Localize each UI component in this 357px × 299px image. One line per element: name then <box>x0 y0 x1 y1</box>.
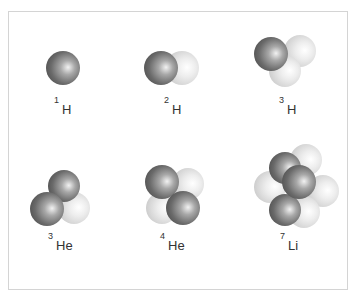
proton-sphere-icon <box>30 192 64 226</box>
nuclei-diagram <box>0 0 357 299</box>
nucleus-h3 <box>254 35 316 87</box>
mass-number: 2 <box>164 95 169 105</box>
element-symbol: H <box>62 102 71 117</box>
element-symbol: Li <box>288 238 298 253</box>
proton-sphere-icon <box>269 194 301 226</box>
nucleus-he4 <box>145 165 204 225</box>
mass-number: 4 <box>160 231 165 241</box>
proton-sphere-icon <box>282 165 316 199</box>
nucleus-he3 <box>30 170 90 226</box>
mass-number: 7 <box>280 231 285 241</box>
nucleus-h2 <box>144 51 199 85</box>
isotope-label-he3: 3He <box>48 234 73 249</box>
isotope-label-h2: 2H <box>164 98 181 113</box>
isotope-label-he4: 4He <box>160 234 185 249</box>
mass-number: 3 <box>48 231 53 241</box>
element-symbol: He <box>56 238 73 253</box>
element-symbol: He <box>168 238 185 253</box>
element-symbol: H <box>172 102 181 117</box>
proton-sphere-icon <box>46 51 80 85</box>
nucleus-li7 <box>254 144 339 228</box>
mass-number: 1 <box>54 95 59 105</box>
nucleus-h1 <box>46 51 80 85</box>
proton-sphere-icon <box>166 191 200 225</box>
isotope-label-li7: 7Li <box>280 234 298 249</box>
element-symbol: H <box>287 102 296 117</box>
mass-number: 3 <box>279 95 284 105</box>
proton-sphere-icon <box>144 51 178 85</box>
proton-sphere-icon <box>254 37 288 71</box>
isotope-label-h1: 1H <box>54 98 71 113</box>
isotope-label-h3: 3H <box>279 98 296 113</box>
